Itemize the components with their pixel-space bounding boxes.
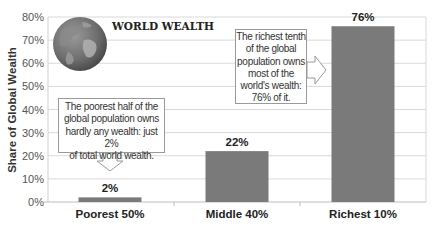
bar <box>206 151 269 202</box>
bar <box>332 26 395 202</box>
annotation-line: hardly any wealth: just 2% <box>59 126 164 151</box>
annotation-line: world's wealth: <box>236 80 306 92</box>
category-label: Poorest 50% <box>75 208 144 220</box>
annotation-line: population owns <box>236 56 306 68</box>
annotation-line: most of the <box>236 68 306 80</box>
bar <box>79 197 142 202</box>
annotation-poorest: The poorest half of the global populatio… <box>58 98 165 153</box>
category-label: Middle 40% <box>206 208 269 220</box>
chart-title: WORLD WEALTH <box>111 20 214 32</box>
y-tick-label: 0% <box>28 196 44 208</box>
annotation-richest: The richest tenth of the global populati… <box>235 29 307 104</box>
y-axis-label: Share of Global Wealth <box>6 47 18 173</box>
y-tick-label: 20% <box>22 150 44 162</box>
y-tick-label: 70% <box>22 34 44 46</box>
annotation-line: The poorest half of the <box>59 101 164 113</box>
arrow-right-icon <box>307 56 326 84</box>
category-label: Richest 10% <box>329 208 397 220</box>
bar-value-label: 76% <box>351 11 374 23</box>
x-axis-labels: Poorest 50%Middle 40%Richest 10% <box>75 208 396 220</box>
bar-value-label: 22% <box>225 136 248 148</box>
y-tick-label: 50% <box>22 80 44 92</box>
y-tick-label: 60% <box>22 57 44 69</box>
y-tick-label: 80% <box>22 11 44 23</box>
annotation-line: global population owns <box>59 113 164 125</box>
annotation-line: of total world wealth. <box>59 150 164 162</box>
annotation-line: of the global <box>236 43 306 55</box>
y-tick-label: 30% <box>22 127 44 139</box>
y-axis-ticks: 0%10%20%30%40%50%60%70%80% <box>22 11 44 208</box>
bar-value-label: 2% <box>102 182 119 194</box>
annotation-line: 76% of it. <box>236 92 306 104</box>
annotation-line: The richest tenth <box>236 31 306 43</box>
y-tick-label: 40% <box>22 104 44 116</box>
globe-icon <box>53 17 107 71</box>
y-tick-label: 10% <box>22 173 44 185</box>
